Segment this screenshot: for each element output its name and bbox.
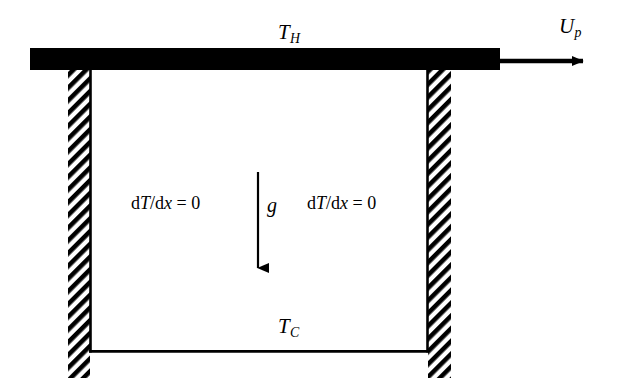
bc-left-var1: T — [140, 193, 150, 213]
left-adiabatic-boundary-condition-label: dT/dx = 0 — [131, 194, 200, 212]
cold-wall-temperature-label: TC — [278, 316, 299, 340]
moving-lid-plate — [30, 48, 500, 70]
lid-velocity-symbol: U — [559, 14, 574, 38]
bc-right-d1: d — [307, 193, 316, 213]
bc-right-equals-zero: = 0 — [348, 193, 376, 213]
bc-left-var2: x — [164, 193, 172, 213]
left-insulated-wall — [68, 70, 90, 378]
hot-wall-temperature-label: TH — [278, 22, 300, 46]
cold-wall-symbol: T — [278, 314, 290, 338]
bc-left-equals-zero: = 0 — [172, 193, 200, 213]
right-insulated-wall — [428, 70, 451, 378]
bc-right-var1: T — [316, 193, 326, 213]
hot-wall-symbol: T — [278, 20, 290, 44]
bc-right-d2: d — [331, 193, 340, 213]
cavity-schematic-figure: TH Up TC g dT/dx = 0 dT/dx = 0 — [0, 0, 617, 385]
lid-velocity-label: Up — [559, 16, 581, 40]
hot-wall-subscript: H — [290, 31, 300, 46]
bc-left-d2: d — [155, 193, 164, 213]
cold-wall-subscript: C — [290, 325, 300, 340]
gravity-label: g — [267, 195, 277, 215]
bc-left-d1: d — [131, 193, 140, 213]
lid-velocity-subscript: p — [574, 25, 581, 40]
bc-right-var2: x — [340, 193, 348, 213]
right-adiabatic-boundary-condition-label: dT/dx = 0 — [307, 194, 376, 212]
